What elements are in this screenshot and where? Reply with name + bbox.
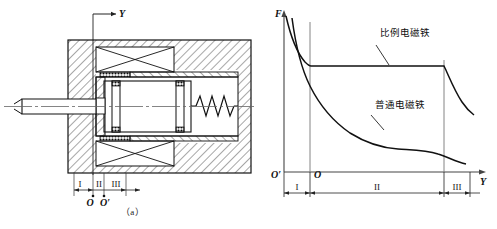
chart-axis-label-f: F	[274, 8, 282, 19]
chart-origin-o-prime: O′	[271, 169, 281, 180]
panel-a-axis-label-y: Y	[119, 8, 126, 19]
chart-axis-label-y: Y	[480, 176, 487, 187]
panel-a-origin-o-prime: O′	[100, 197, 110, 208]
annotation-proportional	[376, 45, 389, 65]
coil-winding-top	[96, 47, 174, 72]
panel-a-zone-3: III	[112, 179, 121, 189]
coil-winding-bottom	[96, 141, 174, 166]
label-ordinary-solenoid: 普通电磁铁	[375, 99, 425, 110]
panel-a-zone-1: I	[79, 179, 82, 189]
f-axis	[281, 10, 286, 172]
panel-a-mechanical-drawing: Y	[0, 0, 258, 229]
chart-origin-o: O	[314, 169, 321, 180]
annotation-ordinary	[371, 115, 384, 130]
panel-a-zone-2: II	[96, 179, 102, 189]
panel-a-origin-o: O	[86, 197, 93, 208]
chart-zone-3: III	[453, 182, 462, 192]
zone-dimension-lines	[74, 188, 140, 192]
figure-container: Y	[0, 0, 497, 229]
panel-b-chart: F Y 比例电磁铁	[258, 0, 497, 229]
zone-boundaries	[310, 22, 444, 172]
chart-zone-2: II	[374, 182, 380, 192]
panel-a-caption: （a）	[121, 205, 144, 218]
chart-zone-1: I	[296, 182, 299, 192]
label-proportional-solenoid: 比例电磁铁	[380, 27, 430, 38]
curve-ordinary-solenoid	[292, 18, 466, 164]
